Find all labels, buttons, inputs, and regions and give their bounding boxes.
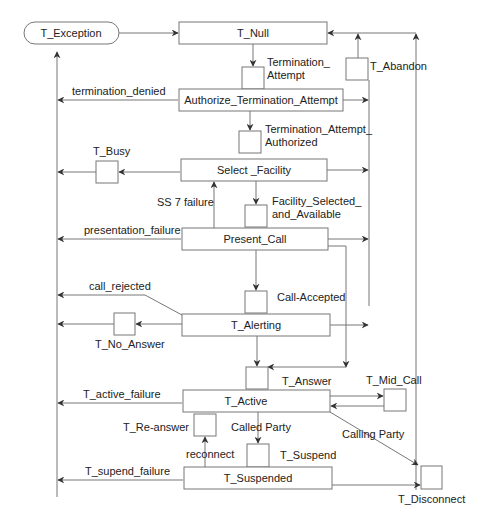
state-label: T_Active — [225, 395, 268, 407]
pic-termination-attempt-authorized[interactable]: Termination_Attempt_Authorized — [239, 123, 373, 153]
state-select-facility[interactable]: Select _Facility — [181, 159, 327, 181]
state-t-null[interactable]: T_Null — [179, 22, 327, 44]
active-failure-label: T_active_failure — [83, 388, 161, 400]
pic-t-busy[interactable]: T_Busy — [93, 145, 131, 183]
pic-t-abandon[interactable]: T_Abandon — [346, 58, 427, 80]
call-rejected-arrow — [58, 295, 182, 315]
suspend-failure-label: T_supend_failure — [85, 465, 170, 477]
t-bcsm-state-diagram: T_Exception T_Null T_Abandon Termination… — [0, 0, 481, 522]
pic-label: T_Disconnect — [398, 493, 465, 505]
pic-call-accepted[interactable]: Call-Accepted — [245, 291, 345, 313]
state-t-alerting[interactable]: T_Alerting — [182, 314, 330, 336]
pic-label: T_Abandon — [370, 60, 427, 72]
state-t-exception[interactable]: T_Exception — [24, 22, 119, 44]
pic-label: Termination_Attempt_Authorized — [265, 123, 373, 148]
pic-label: Termination_Attempt — [267, 56, 331, 81]
state-present-call[interactable]: Present_Call — [182, 228, 328, 250]
presentation-failure-label: presentation_failure — [84, 224, 181, 236]
pic-label: Facility_Selected_and_Available — [272, 195, 362, 220]
pic-label: T_No_Answer — [95, 338, 165, 350]
state-label: Select _Facility — [217, 164, 291, 176]
state-t-suspended[interactable]: T_Suspended — [184, 467, 332, 489]
pic-t-suspend[interactable]: T_Suspend — [247, 444, 336, 467]
pic-label: T_Mid_Call — [366, 374, 422, 386]
pic-label: Call-Accepted — [277, 291, 345, 303]
pic-termination-attempt[interactable]: Termination_Attempt — [242, 56, 331, 89]
pic-t-mid-call[interactable]: T_Mid_Call — [366, 374, 422, 411]
ss7-failure-label: SS 7 failure — [157, 196, 214, 208]
call-rejected-label: call_rejected — [89, 280, 151, 292]
termination-denied-label: termination_denied — [72, 85, 166, 97]
pic-facility-selected[interactable]: Facility_Selected_and_Available — [245, 195, 362, 227]
calling-party-label: Calling Party — [342, 428, 405, 440]
state-label: Present_Call — [224, 233, 287, 245]
pic-t-no-answer[interactable]: T_No_Answer — [95, 313, 165, 350]
present-to-answer-line — [328, 246, 346, 367]
called-party-label: Called Party — [231, 421, 291, 433]
state-t-active[interactable]: T_Active — [183, 390, 330, 412]
state-label: T_Alerting — [231, 319, 281, 331]
state-label: Authorize_Termination_Attempt — [184, 94, 337, 106]
state-authorize-termination-attempt[interactable]: Authorize_Termination_Attempt — [179, 89, 343, 111]
reconnect-label: reconnect — [186, 448, 234, 460]
pic-label: T_Re-answer — [123, 421, 189, 433]
state-label: T_Null — [237, 27, 269, 39]
pic-label: T_Suspend — [280, 449, 336, 461]
state-label: T_Exception — [40, 27, 101, 39]
pic-label: T_Busy — [93, 145, 131, 157]
pic-t-answer[interactable]: T_Answer — [246, 367, 332, 389]
pic-t-re-answer[interactable]: T_Re-answer — [123, 414, 216, 436]
pic-label: T_Answer — [282, 375, 332, 387]
state-label: T_Suspended — [224, 472, 293, 484]
